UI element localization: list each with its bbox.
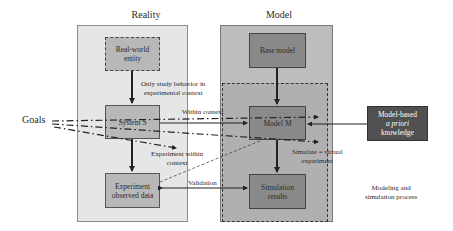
- goals-line-simulate: [52, 124, 318, 142]
- within-context-label: Within context: [182, 108, 224, 116]
- goals-line-within-context: [52, 117, 318, 121]
- experiment-within-line2: context: [151, 159, 203, 168]
- study-behavior-line2: experimental context: [141, 89, 205, 98]
- validation-label: Validation: [188, 179, 217, 187]
- goals-line-experiment: [54, 127, 176, 148]
- study-behavior-line1: Only study behavior in: [141, 80, 205, 89]
- study-behavior-label: Only study behavior in experimental cont…: [141, 80, 205, 98]
- goals-label: Goals: [22, 114, 45, 125]
- caption: Modeling and simulation process: [365, 184, 417, 202]
- simulate-label: Simulate = virtual experiment: [292, 148, 343, 166]
- caption-line1: Modeling and: [365, 184, 417, 193]
- caption-line2: simulation process: [365, 193, 417, 202]
- experiment-within-line1: Experiment within: [151, 150, 203, 159]
- simulate-line2: experiment: [292, 157, 343, 166]
- simulate-line1: Simulate = virtual: [292, 148, 343, 157]
- experiment-within-context-label: Experiment within context: [151, 150, 203, 168]
